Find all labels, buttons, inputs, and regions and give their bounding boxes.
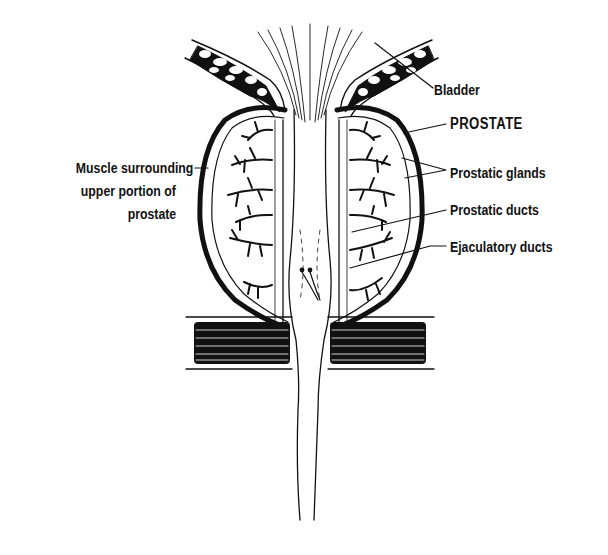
prostatic-glands-right bbox=[350, 122, 394, 300]
label-ejaculatory-ducts: Ejaculatory ducts bbox=[450, 237, 553, 256]
label-prostate: PROSTATE bbox=[450, 114, 523, 133]
anatomy-illustration bbox=[0, 0, 608, 555]
sphincter-muscle bbox=[186, 317, 434, 369]
urethra bbox=[275, 110, 347, 520]
prostatic-glands-left bbox=[228, 122, 272, 298]
label-bladder: Bladder bbox=[434, 80, 480, 99]
bladder-wall-right bbox=[340, 40, 438, 116]
label-muscle-line2: upper portion of bbox=[81, 181, 176, 200]
label-muscle-line3: prostate bbox=[127, 204, 176, 223]
ejaculatory-ducts bbox=[300, 268, 320, 300]
label-prostatic-ducts: Prostatic ducts bbox=[450, 200, 539, 219]
label-prostatic-glands: Prostatic glands bbox=[450, 163, 546, 182]
prostate-capsule bbox=[200, 108, 422, 326]
label-muscle-line1: Muscle surrounding bbox=[75, 158, 193, 177]
prostate-diagram: Bladder PROSTATE Prostatic glands Prosta… bbox=[0, 0, 608, 555]
